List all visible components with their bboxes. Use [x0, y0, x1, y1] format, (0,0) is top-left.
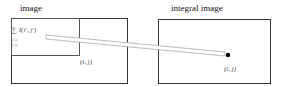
arrow-layer	[0, 0, 281, 87]
point-marker	[226, 53, 230, 57]
mapping-arrow	[46, 35, 225, 56]
